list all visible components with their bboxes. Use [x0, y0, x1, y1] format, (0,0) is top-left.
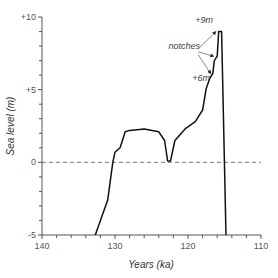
annotation-label: +6m — [192, 73, 210, 83]
y-tick-label: +10 — [21, 12, 36, 22]
y-tick-label: 0 — [31, 157, 36, 167]
annotation-label: notches — [169, 41, 201, 51]
x-axis-title: Years (ka) — [128, 259, 174, 270]
annotations: +9mnotches+6m — [169, 15, 216, 83]
sea-level-chart: +10+50-5140130120110 +9mnotches+6m Years… — [0, 0, 278, 278]
sea-level-curve — [95, 32, 226, 236]
annotation-arrow — [198, 55, 211, 74]
x-tick-label: 110 — [254, 241, 268, 251]
annotation-arrow — [198, 52, 214, 56]
annotation-label: +9m — [195, 15, 213, 25]
y-axis-title: Sea level (m) — [5, 97, 16, 156]
axes: +10+50-5140130120110 — [21, 12, 268, 251]
x-tick-label: 140 — [34, 241, 49, 251]
y-tick-label: +5 — [26, 85, 36, 95]
x-tick-label: 120 — [180, 241, 195, 251]
x-tick-label: 130 — [107, 241, 122, 251]
y-tick-label: -5 — [28, 230, 36, 240]
annotation-arrow — [198, 32, 216, 49]
sea-level-line — [95, 32, 226, 236]
